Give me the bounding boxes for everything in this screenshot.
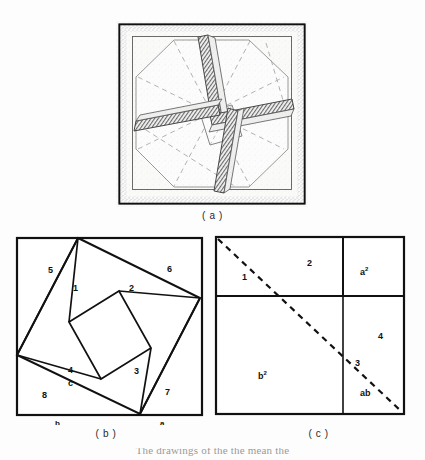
panel-b-caption: ( b ) [0,428,212,439]
page-running-footer-text: The drawings of the the mean the [0,448,425,456]
panel-b-label-7: 7 [165,387,170,397]
panel-c-label-2: 2 [307,258,312,268]
panel-c-label-1: 1 [242,272,247,282]
panel-c-label-4: 4 [378,331,383,341]
panel-b-diagram: 5 1 2 6 4 3 7 8 c b a [10,230,210,425]
panel-b-label-6: 6 [167,264,172,274]
figure-page: ( a ) 5 1 2 6 [0,0,425,460]
panel-c-label-3: 3 [355,358,360,368]
panel-c-caption: ( c ) [212,428,425,439]
panel-c-area-label-ab: ab [360,388,371,398]
panel-b-outer-square [17,238,202,415]
panel-b-label-4: 4 [68,365,73,375]
panel-c-diagram: 1 2 3 4 a2 b2 ab [212,230,412,425]
panel-a-photograph [116,21,308,207]
panel-a-caption: ( a ) [0,210,425,221]
panel-b-label-8: 8 [42,390,47,400]
panel-b-label-5: 5 [48,265,53,275]
panel-b-label-2: 2 [129,283,134,293]
panel-b-label-3: 3 [134,366,139,376]
page-running-header [0,0,425,14]
panel-b-side-label-b: b [55,419,60,425]
panel-b-side-label-a: a [160,419,165,425]
page-running-footer: The drawings of the the mean the [0,448,425,460]
panel-b-side-label-c: c [68,378,73,388]
panel-b-label-1: 1 [73,283,78,293]
